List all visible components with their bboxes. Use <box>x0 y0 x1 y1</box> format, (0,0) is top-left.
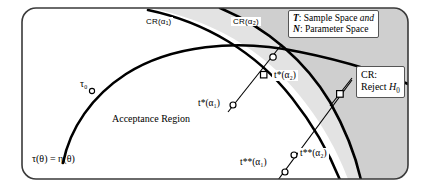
legend-text-sample-space: : Sample Space <box>299 13 360 23</box>
legend-box: T: Sample Space and N: Parameter Space <box>288 10 379 38</box>
legend-symbol-n: N <box>293 24 300 34</box>
t-dstar-alpha2-point-marker <box>291 152 297 158</box>
legend-line-sample-space: T: Sample Space and <box>293 13 374 24</box>
tau-zero-point-marker <box>89 88 94 93</box>
cr-reject-line2-prefix: Reject <box>361 81 389 92</box>
t-double-star-alpha1-label: t**(α₁) <box>238 157 269 168</box>
legend-emphasis-and: and <box>360 13 374 23</box>
cr-reject-point-marker <box>337 91 344 98</box>
t-star-alpha2-point-marker <box>261 72 267 78</box>
t-star-alpha2-label: t*(α₂) <box>272 70 298 81</box>
tau-zero-label: τ₀ <box>80 78 88 90</box>
t-double-star-alpha2-label: t**(α₂) <box>298 148 329 159</box>
cr-reject-box: CR: Reject H0 <box>356 66 405 98</box>
cr-reject-line1: CR: <box>361 69 377 80</box>
t-star-alpha1-label: t*(α₁) <box>196 98 222 109</box>
acceptance-region-label: Acceptance Region <box>112 113 190 125</box>
cr-alpha1-label: CR(α₁) <box>144 17 173 26</box>
legend-text-parameter-space: : Parameter Space <box>300 24 369 34</box>
tau-eta-equation-label: τ(θ) = η(θ) <box>32 153 75 165</box>
upper-intersection-point-marker <box>270 54 276 60</box>
t-star-alpha1-point-marker <box>230 102 236 108</box>
legend-line-parameter-space: N: Parameter Space <box>293 24 374 35</box>
figure-container: CR(α₁) CR(α₂) T: Sample Space and N: Par… <box>0 0 424 187</box>
cr-alpha2-label: CR(α₂) <box>231 17 261 26</box>
t-dstar-alpha1-point-marker <box>282 169 288 175</box>
cr-reject-h-subscript: 0 <box>396 87 400 95</box>
